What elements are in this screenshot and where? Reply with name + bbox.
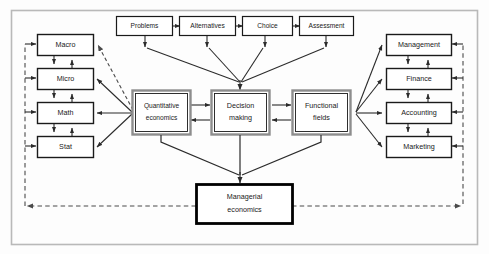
box-quantitative-economics-label-line1: Quantitative — [144, 102, 180, 110]
box-problems-label: Problems — [131, 22, 160, 29]
box-math-label: Math — [58, 108, 74, 117]
process-boxes: Problems Alternatives Choice Assessment — [117, 17, 354, 36]
box-micro-label: Micro — [57, 74, 75, 83]
box-accounting-label: Accounting — [401, 108, 437, 117]
box-management-label: Management — [398, 40, 440, 49]
box-stat-label: Stat — [59, 142, 72, 151]
box-macro-label: Macro — [56, 40, 76, 49]
box-assessment-label: Assessment — [309, 22, 345, 29]
box-finance-label: Finance — [406, 74, 432, 83]
box-marketing-label: Marketing — [403, 142, 435, 151]
box-managerial-economics-label-line1: Managerial — [227, 192, 263, 201]
box-decision-making-label-line2: making — [229, 113, 252, 122]
box-quantitative-economics-inner — [136, 94, 188, 132]
box-choice-label: Choice — [257, 22, 278, 29]
box-managerial-economics-label-line2: economics — [227, 205, 262, 214]
box-quantitative-economics-label-line2: economics — [146, 114, 178, 121]
box-functional-fields-label-line2: fields — [313, 113, 330, 122]
box-managerial-economics[interactable] — [197, 185, 293, 224]
center-row-boxes: Quantitative economics Decision making F… — [133, 91, 351, 135]
diagram-svg: Problems Alternatives Choice Assessment … — [0, 0, 489, 254]
box-alternatives-label: Alternatives — [190, 22, 225, 29]
box-decision-making-label-line1: Decision — [227, 101, 255, 110]
diagram-canvas: Problems Alternatives Choice Assessment … — [0, 0, 489, 254]
box-functional-fields-label-line1: Functional — [305, 101, 339, 110]
